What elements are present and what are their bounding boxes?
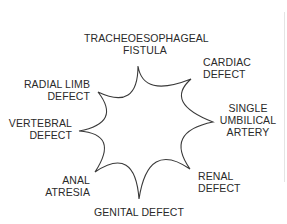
label-line: RADIAL LIMB — [20, 78, 90, 90]
page-edge-divider — [284, 12, 285, 182]
label-line: CARDIAC — [203, 56, 251, 68]
label-tracheoesophageal-fistula: TRACHEOESOPHAGEAL FISTULA — [84, 32, 206, 56]
label-cardiac-defect: CARDIAC DEFECT — [203, 56, 251, 80]
label-anal-atresia: ANAL ATRESIA — [40, 174, 90, 198]
label-line: VERTEBRAL — [4, 117, 72, 129]
label-genital-defect: GENITAL DEFECT — [84, 206, 194, 218]
label-line: FISTULA — [84, 44, 206, 56]
label-line: ATRESIA — [40, 186, 90, 198]
label-line: DEFECT — [203, 68, 251, 80]
label-line: ARTERY — [218, 126, 278, 138]
label-renal-defect: RENAL DEFECT — [198, 170, 241, 194]
label-line: DEFECT — [4, 129, 72, 141]
label-line: TRACHEOESOPHAGEAL — [84, 32, 206, 44]
label-line: RENAL — [198, 170, 241, 182]
label-single-umbilical-artery: SINGLE UMBILICAL ARTERY — [218, 102, 278, 138]
label-radial-limb-defect: RADIAL LIMB DEFECT — [20, 78, 90, 102]
label-line: SINGLE — [218, 102, 278, 114]
label-line: DEFECT — [20, 90, 90, 102]
label-line: DEFECT — [198, 182, 241, 194]
label-line: GENITAL DEFECT — [84, 206, 194, 218]
label-line: UMBILICAL — [218, 114, 278, 126]
vacterl-diagram: TRACHEOESOPHAGEAL FISTULA CARDIAC DEFECT… — [0, 0, 287, 224]
label-line: ANAL — [40, 174, 90, 186]
label-vertebral-defect: VERTEBRAL DEFECT — [4, 117, 72, 141]
